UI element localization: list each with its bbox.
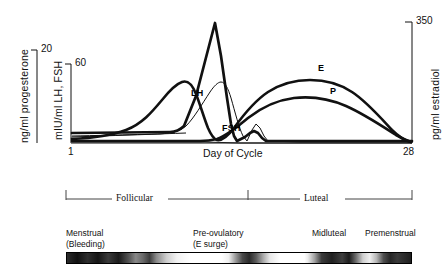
phase-label-luteal: Luteal <box>304 193 328 203</box>
stage-menstrual-line1: Menstrual <box>66 228 105 239</box>
stage-label-preovulatory: Pre-ovulatory (E surge) <box>193 228 244 249</box>
y-axis-estradiol-tick: 350 <box>416 15 433 26</box>
y-axis-progesterone-label: ng/ml progesterone <box>18 49 30 143</box>
y-axis-lh-fsh-tick: 60 <box>75 57 86 68</box>
y-axis-progesterone-tick: 20 <box>41 43 52 54</box>
stage-menstrual-line2: (Bleeding) <box>66 239 105 250</box>
stage-premenstrual-line1: Premenstrual <box>365 228 416 239</box>
stage-preovulatory-line1: Pre-ovulatory <box>193 228 244 239</box>
bleeding-intensity-bar <box>66 252 412 264</box>
stage-label-menstrual: Menstrual (Bleeding) <box>66 228 105 249</box>
stage-label-midluteal: Midluteal <box>312 228 346 239</box>
curve-label-p: P <box>330 86 336 96</box>
stage-midluteal-line1: Midluteal <box>312 228 346 239</box>
stage-preovulatory-line2: (E surge) <box>193 239 244 250</box>
phase-label-follicular: Follicular <box>116 193 153 203</box>
y-axis-estradiol-line <box>405 22 412 143</box>
y-axis-progesterone-line <box>31 50 37 143</box>
y-axis-lh-fsh-label: mIU/ml LH, FSH <box>52 61 64 140</box>
curve-label-lh: LH <box>191 88 204 98</box>
x-axis-label: Day of Cycle <box>203 147 263 159</box>
stage-label-premenstrual: Premenstrual <box>365 228 416 239</box>
curve-label-e: E <box>318 63 324 73</box>
y-axis-estradiol-label: pg/ml estradiol <box>429 69 441 140</box>
y-axis-lh-fsh-line <box>65 64 71 143</box>
x-axis-tick-end: 28 <box>403 146 414 157</box>
curve-label-fsh: FSH <box>222 123 241 133</box>
x-axis-tick-start: 1 <box>68 146 74 157</box>
